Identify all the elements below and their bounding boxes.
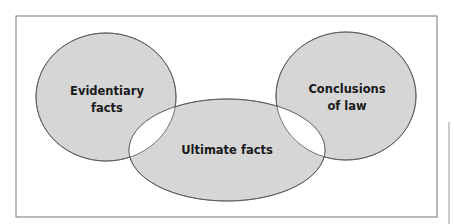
evidentiary-label-line2: facts [91,101,123,115]
venn-diagram: Evidentiary facts Ultimate facts Conclus… [0,0,454,224]
evidentiary-label-line1: Evidentiary [70,84,144,98]
ultimate-label: Ultimate facts [181,143,273,157]
conclusions-label-line2: of law [327,99,367,113]
conclusions-label-line1: Conclusions [308,82,385,96]
